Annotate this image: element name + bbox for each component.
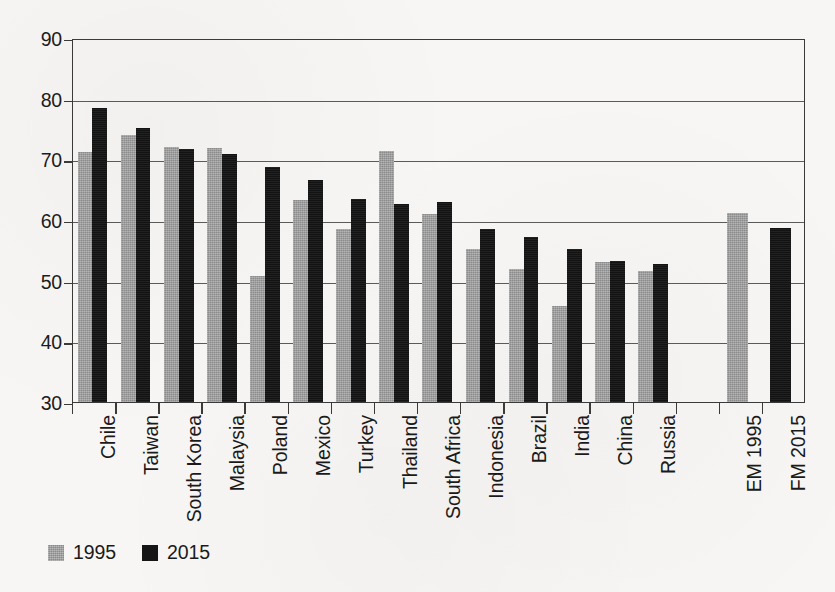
legend-item-2015: 2015 xyxy=(142,541,210,564)
chart-figure: 90807060504030 ChileTaiwanSouth KoreaMal… xyxy=(0,0,835,592)
x-axis-label-em-1995: EM 1995 xyxy=(745,415,765,492)
x-axis-label-malaysia: Malaysia xyxy=(228,415,248,491)
bar-1995-brazil xyxy=(509,269,524,402)
x-tick-mark xyxy=(374,403,375,414)
y-tick-label: 40 xyxy=(41,331,62,354)
plot-area xyxy=(72,39,805,403)
legend-swatch-2015 xyxy=(142,545,158,561)
bar-2015-indonesia xyxy=(480,229,495,402)
bar-2015-brazil xyxy=(524,237,539,402)
bar-2015-china xyxy=(610,261,625,402)
bar-2015-chile xyxy=(92,108,107,402)
x-axis-label-brazil: Brazil xyxy=(530,415,550,463)
y-tick-label: 90 xyxy=(41,28,62,51)
y-tick-label: 50 xyxy=(41,270,62,293)
x-tick-mark xyxy=(158,403,159,414)
bar-2015-russia xyxy=(653,264,668,402)
bar-2015-fm-2015 xyxy=(770,228,792,402)
x-axis-label-chile: Chile xyxy=(99,415,119,459)
bar-1995-india xyxy=(552,306,567,402)
bar-1995-russia xyxy=(638,271,653,402)
bar-2015-thailand xyxy=(394,204,409,402)
y-tick-label: 30 xyxy=(41,392,62,415)
y-tick-mark xyxy=(64,343,73,344)
x-tick-mark xyxy=(460,403,461,414)
bars-layer xyxy=(73,40,804,402)
bar-1995-mexico xyxy=(293,200,308,402)
legend-label-1995: 1995 xyxy=(73,541,116,564)
y-tick-label: 70 xyxy=(41,149,62,172)
x-tick-mark xyxy=(417,403,418,414)
x-axis-labels: ChileTaiwanSouth KoreaMalaysiaPolandMexi… xyxy=(72,415,805,535)
y-tick-mark xyxy=(64,283,73,284)
bar-2015-south-africa xyxy=(437,202,452,402)
bar-2015-india xyxy=(567,249,582,402)
x-axis-label-indonesia: Indonesia xyxy=(487,415,507,499)
x-tick-mark xyxy=(676,403,677,414)
x-axis-label-fm-2015: FM 2015 xyxy=(789,415,809,491)
x-axis-label-india: India xyxy=(573,415,593,457)
x-axis-label-south-africa: South Africa xyxy=(444,415,464,519)
bar-1995-thailand xyxy=(379,151,394,402)
bar-2015-turkey xyxy=(351,199,366,402)
x-axis-label-south-korea: South Korea xyxy=(185,415,205,522)
x-tick-mark xyxy=(115,403,116,414)
x-tick-mark xyxy=(719,403,720,414)
y-tick-mark xyxy=(64,101,73,102)
x-tick-mark xyxy=(201,403,202,414)
x-tick-mark xyxy=(762,403,763,414)
x-axis-label-china: China xyxy=(616,415,636,465)
x-tick-mark xyxy=(546,403,547,414)
chart-legend: 19952015 xyxy=(48,541,210,564)
x-axis-label-thailand: Thailand xyxy=(401,415,421,489)
x-axis-label-mexico: Mexico xyxy=(314,415,334,476)
x-tick-mark xyxy=(503,403,504,414)
y-tick-mark xyxy=(64,40,73,41)
bar-1995-south-africa xyxy=(422,214,437,402)
y-tick-label: 80 xyxy=(41,88,62,111)
x-axis-label-russia: Russia xyxy=(659,415,679,474)
bar-1995-chile xyxy=(78,152,93,402)
bar-1995-taiwan xyxy=(121,135,136,402)
x-tick-mark xyxy=(288,403,289,414)
bar-1995-turkey xyxy=(336,229,351,403)
bar-2015-malaysia xyxy=(222,154,237,402)
bar-2015-poland xyxy=(265,167,280,402)
bar-1995-em-1995 xyxy=(727,213,749,402)
x-axis-ticks xyxy=(72,403,805,415)
bar-1995-indonesia xyxy=(466,249,481,402)
bar-2015-mexico xyxy=(308,180,323,402)
legend-item-1995: 1995 xyxy=(48,541,116,564)
bar-1995-malaysia xyxy=(207,148,222,402)
legend-label-2015: 2015 xyxy=(167,541,210,564)
y-axis-labels: 90807060504030 xyxy=(18,39,62,403)
x-axis-label-taiwan: Taiwan xyxy=(142,415,162,475)
x-tick-mark xyxy=(72,403,73,414)
y-tick-mark xyxy=(64,222,73,223)
bar-1995-south-korea xyxy=(164,147,179,402)
y-tick-label: 60 xyxy=(41,210,62,233)
y-tick-mark xyxy=(64,161,73,162)
bar-1995-china xyxy=(595,262,610,402)
x-tick-mark xyxy=(331,403,332,414)
x-axis-label-poland: Poland xyxy=(271,415,291,475)
bar-2015-taiwan xyxy=(136,128,151,402)
bar-1995-poland xyxy=(250,276,265,402)
legend-swatch-1995 xyxy=(48,545,64,561)
x-axis-label-turkey: Turkey xyxy=(357,415,377,473)
x-tick-mark xyxy=(633,403,634,414)
bar-2015-south-korea xyxy=(179,149,194,402)
x-tick-mark xyxy=(244,403,245,414)
x-tick-mark xyxy=(589,403,590,414)
